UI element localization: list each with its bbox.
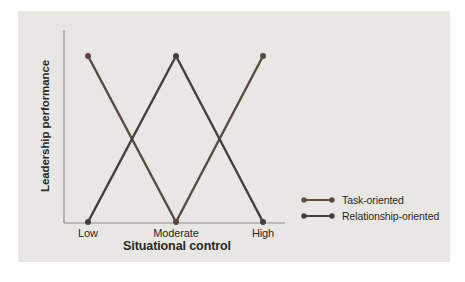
legend-marker-relationship-oriented-icon: [300, 211, 336, 221]
x-axis-title: Situational control: [123, 239, 231, 253]
legend-marker-task-oriented-icon: [300, 195, 336, 205]
x-tick-high: High: [252, 227, 274, 239]
x-tick-low: Low: [78, 227, 98, 239]
legend-label-task-oriented: Task-oriented: [342, 194, 404, 206]
legend-item-relationship-oriented: Relationship-oriented: [300, 209, 439, 222]
legend: Task-oriented Relationship-oriented: [300, 193, 439, 222]
legend-item-task-oriented: Task-oriented: [300, 193, 439, 206]
line-chart: [0, 0, 465, 282]
y-axis-label: Leadership performance: [39, 60, 51, 192]
legend-label-relationship-oriented: Relationship-oriented: [342, 210, 439, 222]
x-tick-moderate: Moderate: [153, 227, 199, 239]
